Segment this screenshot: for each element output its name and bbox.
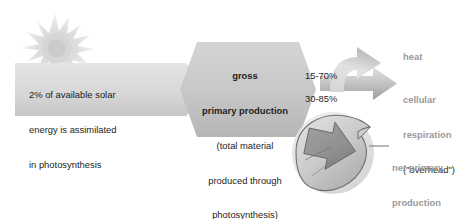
gpp-heading-line-2: primary production [190, 105, 300, 117]
gross-primary-production-text: gross primary production (total material… [190, 47, 300, 219]
label-net-primary-production: net primary production (amount of materi… [392, 139, 448, 219]
label-npp-line-2: production [392, 197, 448, 209]
gpp-detail-line-1: (total material [190, 140, 300, 152]
label-heat-line-1: heat [403, 51, 422, 63]
label-resp-line-1: cellular [403, 94, 455, 106]
label-npp-line-1: net primary [392, 162, 448, 174]
percentage-upper: 15-70% [305, 70, 337, 82]
solar-input-text: 2% of available solar energy is assimila… [29, 66, 169, 194]
solar-input-line-2: energy is assimilated [29, 124, 169, 136]
energy-flow-diagram: 2% of available solar energy is assimila… [0, 0, 465, 219]
solar-input-line-1: 2% of available solar [29, 89, 169, 101]
gpp-detail-line-3: photosynthesis) [190, 209, 300, 219]
solar-input-line-3: in photosynthesis [29, 159, 169, 171]
percentage-lower: 30-85% [305, 93, 337, 105]
gpp-heading-line-1: gross [190, 70, 300, 82]
gpp-detail-line-2: produced through [190, 175, 300, 187]
leaf-icon [292, 112, 374, 194]
